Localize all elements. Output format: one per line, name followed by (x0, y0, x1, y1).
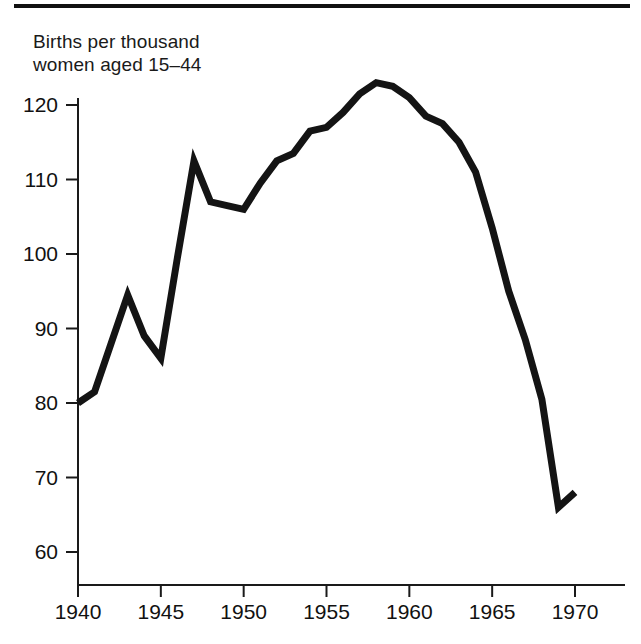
y-tick-label-120: 120 (0, 93, 58, 117)
x-tick-label-1940: 1940 (55, 600, 102, 624)
x-tick-label-1950: 1950 (220, 600, 267, 624)
x-tick-label-1945: 1945 (137, 600, 184, 624)
x-tick-label-1955: 1955 (303, 600, 350, 624)
y-tick-label-70: 70 (0, 466, 58, 490)
y-tick-label-90: 90 (0, 317, 58, 341)
x-axis-ticks (78, 585, 575, 597)
y-tick-label-110: 110 (0, 168, 58, 192)
birth-rate-series-line (78, 83, 575, 508)
y-axis-ticks (66, 105, 78, 552)
x-tick-label-1970: 1970 (552, 600, 599, 624)
x-tick-label-1965: 1965 (469, 600, 516, 624)
y-tick-label-100: 100 (0, 242, 58, 266)
x-tick-label-1960: 1960 (386, 600, 433, 624)
y-tick-label-80: 80 (0, 391, 58, 415)
line-chart-plot (0, 0, 641, 644)
chart-axes (78, 98, 625, 585)
y-tick-label-60: 60 (0, 540, 58, 564)
